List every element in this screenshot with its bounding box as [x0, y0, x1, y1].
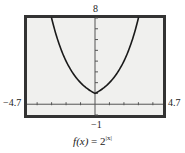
- caption-exponent: |x|: [106, 134, 112, 142]
- caption-function-name: f(x): [73, 135, 88, 147]
- x-max-label: 4.7: [168, 98, 181, 108]
- function-caption: f(x) = 2|x|: [0, 134, 185, 147]
- caption-equals: = 2: [88, 135, 105, 147]
- y-min-label: −1: [91, 120, 102, 130]
- x-min-label: −4.7: [3, 98, 21, 108]
- y-max-label: 8: [93, 4, 98, 14]
- graphing-calculator-screen: [0, 0, 185, 153]
